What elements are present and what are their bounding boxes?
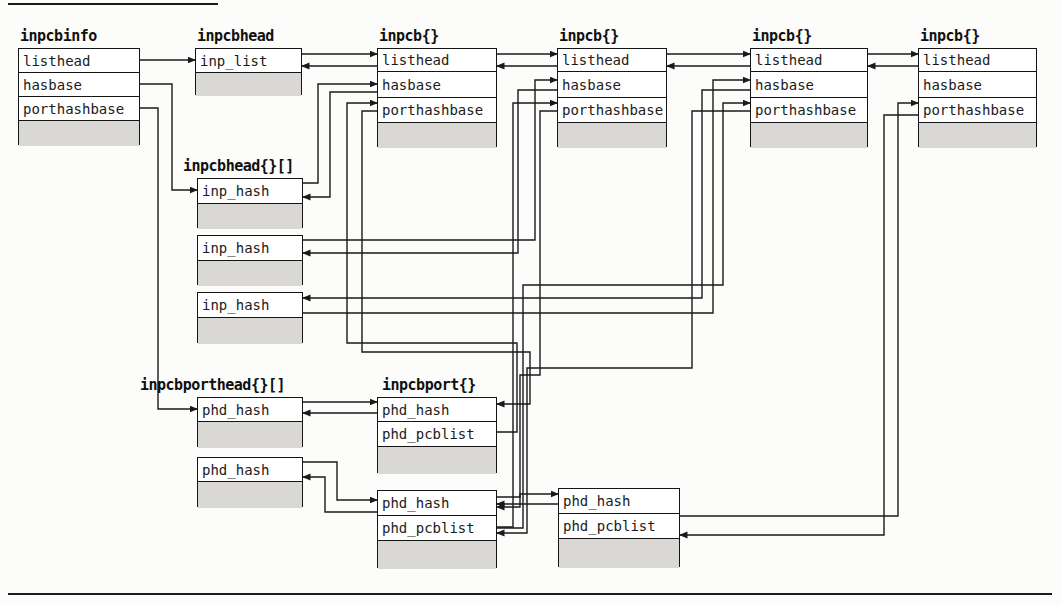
struct-inpcb1: listheadhasbaseporthashbase — [377, 48, 497, 147]
inpcbhead-field-inp_list: inp_list — [196, 49, 301, 73]
inpcb1-field-listhead: listhead — [378, 49, 496, 72]
portbucket1-title: inpcbporthead{}[] — [140, 376, 285, 394]
inpcb1-title: inpcb{} — [379, 27, 439, 45]
hashbucket3-field-inp_hash: inp_hash — [198, 293, 302, 318]
inpcb3-field-listhead: listhead — [751, 49, 867, 72]
pointer-arrow-10 — [140, 108, 197, 409]
portbucket2-shaded-row — [198, 482, 302, 508]
inpcbinfo-field-hasbase: hasbase — [19, 73, 139, 97]
inpcbport2-field-phd_hash: phd_hash — [378, 491, 496, 516]
inpcbport2-shaded-row — [378, 541, 496, 569]
portbucket1-shaded-row — [198, 422, 302, 448]
struct-portbucket2: phd_hash — [197, 457, 303, 507]
hashbucket2-shaded-row — [198, 261, 302, 286]
inpcbinfo-field-listhead: listhead — [19, 49, 139, 73]
inpcbhead-shaded-row — [196, 73, 301, 96]
inpcb2-shaded-row — [558, 123, 666, 148]
inpcb4-field-listhead: listhead — [919, 49, 1036, 72]
inpcbinfo-title: inpcbinfo — [20, 27, 97, 45]
struct-hashbucket3: inp_hash — [197, 292, 303, 343]
pointer-arrow-11 — [303, 84, 377, 183]
hashbucket1-shaded-row — [198, 204, 302, 229]
inpcbport1-field-phd_pcblist: phd_pcblist — [378, 422, 496, 447]
struct-hashbucket2: inp_hash — [197, 235, 303, 285]
struct-inpcbinfo: listheadhasbaseporthashbase — [18, 48, 140, 145]
pointer-arrow-26 — [303, 477, 377, 512]
pointer-arrow-15 — [303, 80, 750, 313]
inpcb3-field-hasbase: hasbase — [751, 72, 867, 98]
inpcbport1-title: inpcbport{} — [382, 376, 476, 394]
inpcb4-field-porthashbase: porthashbase — [919, 98, 1036, 123]
pointer-arrow-20 — [497, 111, 557, 507]
pointer-arrow-30 — [680, 115, 918, 535]
struct-inpcb2: listheadhasbaseporthashbase — [557, 48, 667, 147]
hashbucket2-field-inp_hash: inp_hash — [198, 236, 302, 261]
portbucket1-field-phd_hash: phd_hash — [198, 398, 302, 422]
inpcbhead-title: inpcbhead — [197, 27, 274, 45]
top-rule — [8, 3, 218, 5]
bottom-rule — [8, 593, 1052, 595]
struct-portbucket1: phd_hash — [197, 397, 303, 447]
inpcb2-title: inpcb{} — [559, 27, 619, 45]
pointer-arrow-25 — [303, 462, 377, 500]
inpcb3-field-porthashbase: porthashbase — [751, 98, 867, 123]
inpcb2-field-listhead: listhead — [558, 49, 666, 72]
inpcbport3-shaded-row — [559, 539, 679, 568]
pcb-structures-diagram: inpcbinfolistheadhasbaseporthashbaseinpc… — [0, 0, 1061, 605]
inpcb4-shaded-row — [919, 123, 1036, 148]
struct-inpcbport3: phd_hashphd_pcblist — [558, 488, 680, 567]
pointer-arrow-18 — [362, 111, 530, 404]
pointer-arrow-19 — [497, 103, 557, 527]
inpcb2-field-porthashbase: porthashbase — [558, 98, 666, 123]
inpcb1-shaded-row — [378, 123, 496, 148]
inpcb1-field-porthashbase: porthashbase — [378, 98, 496, 123]
inpcb1-field-hasbase: hasbase — [378, 72, 496, 98]
pointer-arrow-12 — [303, 92, 377, 197]
pointer-arrow-22 — [497, 111, 750, 533]
inpcb2-field-hasbase: hasbase — [558, 72, 666, 98]
pointer-arrow-16 — [303, 90, 750, 298]
portbucket2-field-phd_hash: phd_hash — [198, 458, 302, 482]
inpcbport1-field-phd_hash: phd_hash — [378, 398, 496, 422]
pointer-arrow-21 — [497, 103, 750, 528]
inpcb4-title: inpcb{} — [920, 27, 980, 45]
inpcb4-field-hasbase: hasbase — [919, 72, 1036, 98]
inpcbinfo-shaded-row — [19, 121, 139, 146]
inpcbinfo-field-porthashbase: porthashbase — [19, 97, 139, 121]
pointer-arrow-29 — [680, 103, 918, 516]
struct-inpcb4: listheadhasbaseporthashbase — [918, 48, 1037, 147]
inpcbport3-field-phd_pcblist: phd_pcblist — [559, 514, 679, 539]
struct-inpcbport2: phd_hashphd_pcblist — [377, 490, 497, 568]
inpcb3-shaded-row — [751, 123, 867, 148]
hashbucket1-field-inp_hash: inp_hash — [198, 179, 302, 204]
inpcbport2-field-phd_pcblist: phd_pcblist — [378, 516, 496, 541]
struct-hashbucket1: inp_hash — [197, 178, 303, 228]
struct-inpcbport1: phd_hashphd_pcblist — [377, 397, 497, 473]
pointer-arrow-27 — [497, 494, 558, 497]
struct-inpcb3: listheadhasbaseporthashbase — [750, 48, 868, 147]
hashbucket3-shaded-row — [198, 318, 302, 344]
connector-lines — [0, 0, 1061, 605]
inpcb3-title: inpcb{} — [752, 27, 812, 45]
inpcbport1-shaded-row — [378, 447, 496, 474]
hashbucket1-title: inpcbhead{}[] — [183, 157, 294, 175]
struct-inpcbhead: inp_list — [195, 48, 302, 95]
inpcbport3-field-phd_hash: phd_hash — [559, 489, 679, 514]
